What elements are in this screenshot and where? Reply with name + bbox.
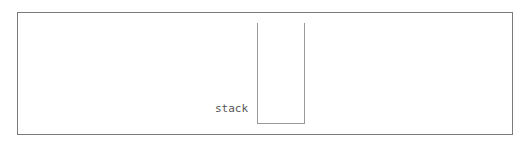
stack-label: stack (215, 102, 248, 116)
stack-container (257, 23, 305, 124)
